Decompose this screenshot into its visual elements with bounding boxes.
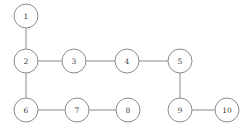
graph-node-6[interactable]: 6 (14, 98, 38, 122)
graph-node-circle-6[interactable] (14, 98, 38, 122)
graph-node-5[interactable]: 5 (168, 49, 192, 73)
graph-node-9[interactable]: 9 (168, 98, 192, 122)
graph-node-circle-8[interactable] (116, 98, 140, 122)
graph-canvas: 12345678910 (0, 0, 247, 130)
node-layer: 12345678910 (14, 4, 239, 122)
graph-node-circle-9[interactable] (168, 98, 192, 122)
graph-node-circle-5[interactable] (168, 49, 192, 73)
graph-node-1[interactable]: 1 (14, 4, 38, 28)
graph-node-4[interactable]: 4 (115, 49, 139, 73)
graph-node-circle-10[interactable] (215, 98, 239, 122)
graph-node-3[interactable]: 3 (62, 49, 86, 73)
graph-node-7[interactable]: 7 (65, 98, 89, 122)
graph-node-circle-4[interactable] (115, 49, 139, 73)
graph-node-circle-2[interactable] (14, 49, 38, 73)
graph-node-circle-1[interactable] (14, 4, 38, 28)
graph-diagram: 12345678910 (0, 0, 247, 130)
graph-node-10[interactable]: 10 (215, 98, 239, 122)
graph-node-8[interactable]: 8 (116, 98, 140, 122)
graph-node-2[interactable]: 2 (14, 49, 38, 73)
graph-node-circle-3[interactable] (62, 49, 86, 73)
graph-node-circle-7[interactable] (65, 98, 89, 122)
